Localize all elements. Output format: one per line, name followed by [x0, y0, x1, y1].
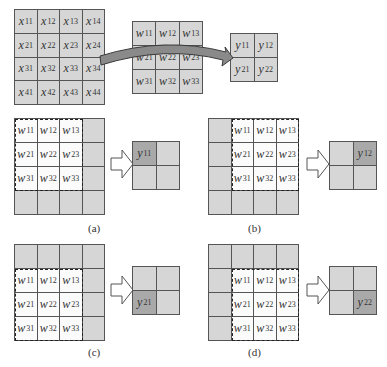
kernel-window-cell: w12	[254, 269, 276, 292]
kernel-window-cell: w13	[60, 119, 82, 142]
hollow-arrow-icon	[110, 275, 134, 305]
input-grid: w11w12w13w21w22w23w31w32w33	[14, 244, 105, 341]
kernel-window-cell: w32	[38, 167, 60, 190]
panel-label: (a)	[88, 222, 100, 234]
kernel-cell: w21	[133, 46, 155, 69]
hollow-arrow-icon	[306, 275, 330, 305]
active-output-cell: y11	[133, 142, 156, 165]
input-cell: x34	[83, 58, 105, 81]
active-output-cell: y12	[354, 142, 377, 165]
input-cell	[209, 293, 231, 316]
output-cell: y21	[231, 58, 254, 81]
output-grid: y11	[132, 141, 180, 190]
kernel-window-cell: w31	[15, 317, 37, 340]
input-cell: x22	[38, 34, 60, 57]
input-cell	[60, 245, 82, 268]
input-cell	[60, 191, 82, 214]
output-cell	[354, 166, 377, 189]
kernel-window-cell: w23	[60, 293, 82, 316]
kernel-window-cell: w23	[277, 293, 299, 316]
input-cell	[232, 191, 254, 214]
input-cell	[209, 317, 231, 340]
kernel-window-cell: w13	[277, 269, 299, 292]
kernel-window-cell: w13	[277, 119, 299, 142]
input-cell	[83, 245, 105, 268]
kernel-window-cell: w11	[232, 269, 254, 292]
output-cell: y12	[255, 34, 278, 57]
kernel-window-cell: w33	[60, 167, 82, 190]
output-cell	[330, 166, 353, 189]
input-cell: x31	[15, 58, 37, 81]
kernel-window-cell: w21	[232, 293, 254, 316]
input-cell: x42	[38, 81, 60, 104]
kernel-cell: w22	[156, 46, 178, 69]
output-cell	[157, 142, 180, 165]
kernel-cell: w12	[156, 22, 178, 45]
output-matrix: y11y12y21y22	[230, 33, 278, 82]
panel-label: (b)	[248, 222, 261, 234]
input-cell	[209, 191, 231, 214]
input-cell	[83, 269, 105, 292]
input-cell: x21	[15, 34, 37, 57]
input-cell	[83, 293, 105, 316]
input-grid: w11w12w13w21w22w23w31w32w33	[14, 118, 105, 215]
kernel-cell: w33	[180, 70, 202, 93]
input-cell	[209, 119, 231, 142]
kernel-cell: w11	[133, 22, 155, 45]
kernel-window-cell: w22	[254, 143, 276, 166]
kernel-cell: w13	[180, 22, 202, 45]
output-cell	[330, 142, 353, 165]
output-cell	[133, 166, 156, 189]
kernel-window-cell: w31	[232, 317, 254, 340]
output-cell	[133, 267, 156, 290]
kernel-cell: w32	[156, 70, 178, 93]
kernel-cell: w31	[133, 70, 155, 93]
input-cell: x13	[60, 10, 82, 33]
input-cell	[15, 191, 37, 214]
kernel-window-cell: w21	[15, 293, 37, 316]
input-cell	[209, 245, 231, 268]
kernel-window-cell: w31	[15, 167, 37, 190]
hollow-arrow-icon	[306, 149, 330, 179]
output-cell	[157, 291, 180, 314]
kernel-window-cell: w33	[60, 317, 82, 340]
kernel-window-cell: w32	[254, 317, 276, 340]
kernel-window-cell: w32	[38, 317, 60, 340]
input-grid: w11w12w13w21w22w23w31w32w33	[208, 118, 299, 215]
kernel-window-cell: w32	[254, 167, 276, 190]
output-cell	[354, 267, 377, 290]
input-cell: x14	[83, 10, 105, 33]
input-cell	[38, 191, 60, 214]
input-cell	[254, 245, 276, 268]
output-grid: y12	[329, 141, 377, 190]
kernel-window-cell: w31	[232, 167, 254, 190]
kernel-cell: w23	[180, 46, 202, 69]
kernel-window-cell: w11	[15, 269, 37, 292]
input-cell	[83, 191, 105, 214]
output-cell: y11	[231, 34, 254, 57]
kernel-window-cell: w33	[277, 167, 299, 190]
input-cell	[83, 167, 105, 190]
input-grid: w11w12w13w21w22w23w31w32w33	[208, 244, 299, 341]
kernel-window-cell: w33	[277, 317, 299, 340]
input-cell	[83, 317, 105, 340]
output-grid: y21	[132, 266, 180, 315]
input-cell: x43	[60, 81, 82, 104]
kernel-window-cell: w11	[232, 119, 254, 142]
output-cell	[157, 166, 180, 189]
input-matrix: x11x12x13x14x21x22x23x24x31x32x33x34x41x…	[14, 9, 105, 105]
input-cell	[15, 245, 37, 268]
kernel-matrix: w11w12w13w21w22w23w31w32w33	[132, 21, 203, 94]
kernel-window-cell: w22	[38, 143, 60, 166]
input-cell	[83, 143, 105, 166]
input-cell	[209, 269, 231, 292]
input-cell	[38, 245, 60, 268]
input-cell: x41	[15, 81, 37, 104]
active-output-cell: y22	[354, 291, 377, 314]
input-cell: x33	[60, 58, 82, 81]
kernel-window-cell: w22	[254, 293, 276, 316]
kernel-window-cell: w12	[254, 119, 276, 142]
input-cell	[209, 143, 231, 166]
hollow-arrow-icon	[110, 149, 134, 179]
input-cell	[277, 191, 299, 214]
